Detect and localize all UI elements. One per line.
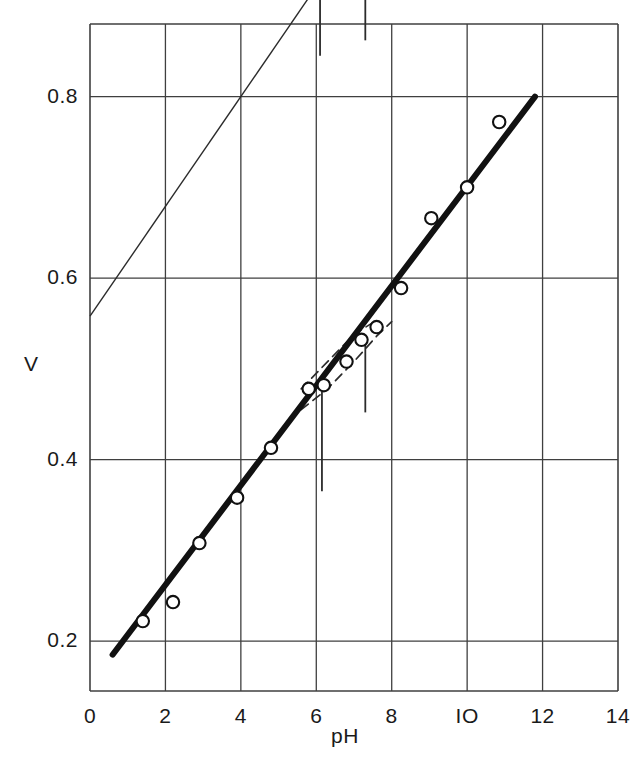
data-point-marker xyxy=(167,596,179,608)
x-axis-title: pH xyxy=(331,724,359,748)
data-point-marker xyxy=(303,383,315,395)
data-point-marker xyxy=(425,212,437,224)
fitted-line-thick xyxy=(113,97,535,655)
data-point-marker xyxy=(193,537,205,549)
chart-gridlines xyxy=(90,24,618,691)
y-tick-label-0.2: 0.2 xyxy=(8,628,78,652)
data-point-marker xyxy=(461,181,473,193)
y-tick-label-0.6: 0.6 xyxy=(8,265,78,289)
data-point-marker xyxy=(137,615,149,627)
x-tick-label-4: 4 xyxy=(211,704,271,728)
data-point-marker xyxy=(370,321,382,333)
data-point-marker xyxy=(231,492,243,504)
data-point-marker xyxy=(265,442,277,454)
chart-figure: 0.20.40.60.802468IO1214 V pH xyxy=(0,0,642,765)
data-point-marker xyxy=(395,282,407,294)
fitted-line-thick xyxy=(113,97,535,655)
vertical-marker-bars xyxy=(320,0,365,491)
data-point-marker xyxy=(318,379,330,391)
x-tick-label-2: 2 xyxy=(135,704,195,728)
x-tick-label-12: 12 xyxy=(513,704,573,728)
y-axis-title: V xyxy=(24,352,39,376)
chart-plot-area xyxy=(0,0,642,765)
x-tick-label-14: 14 xyxy=(588,704,642,728)
reference-line-thin xyxy=(90,0,311,316)
y-tick-label-0.4: 0.4 xyxy=(8,447,78,471)
x-tick-label-0: 0 xyxy=(60,704,120,728)
y-tick-label-0.8: 0.8 xyxy=(8,84,78,108)
data-point-marker xyxy=(340,355,352,367)
data-point-marker xyxy=(355,334,367,346)
data-point-marker xyxy=(493,116,505,128)
x-tick-label-8: 8 xyxy=(362,704,422,728)
reference-line-thin xyxy=(90,0,311,316)
x-tick-label-10: IO xyxy=(437,704,497,728)
